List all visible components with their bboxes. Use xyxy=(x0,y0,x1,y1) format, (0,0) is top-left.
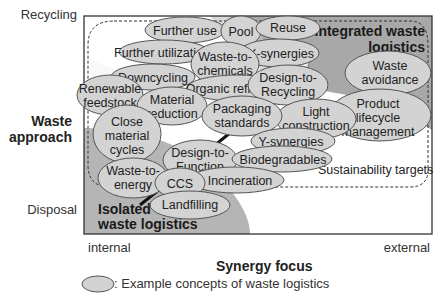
concept-further-use: Further use xyxy=(145,17,225,43)
x-axis-title: Synergy focus xyxy=(216,258,312,274)
svg-text:Further use: Further use xyxy=(153,24,217,38)
svg-text:Reuse: Reuse xyxy=(270,21,306,35)
svg-text:Incineration: Incineration xyxy=(208,174,273,188)
svg-text:Design-to-: Design-to- xyxy=(171,146,229,160)
integrated-label-line-1: Integrated waste xyxy=(315,23,426,39)
sustainability-targets-label: Sustainability targets xyxy=(318,163,433,177)
concept-reuse: Reuse xyxy=(256,16,320,40)
legend-ellipse-icon xyxy=(82,276,114,292)
svg-text:Waste-to-: Waste-to- xyxy=(198,50,252,64)
svg-text:Waste-to-: Waste-to- xyxy=(106,164,160,178)
svg-text:Packaging: Packaging xyxy=(213,102,271,116)
svg-text:Recycling: Recycling xyxy=(261,85,315,99)
concept-waste-avoidance: Waste avoidance xyxy=(345,51,431,95)
svg-text:material: material xyxy=(105,129,149,143)
svg-text:Pool: Pool xyxy=(228,25,253,39)
x-axis-right-label: external xyxy=(376,240,430,255)
svg-text:Renewable: Renewable xyxy=(79,82,142,96)
svg-text:standards: standards xyxy=(215,116,270,130)
svg-text:energy: energy xyxy=(114,178,153,192)
svg-text:Light: Light xyxy=(302,105,330,119)
svg-text:Design-to-: Design-to- xyxy=(259,71,317,85)
x-axis-left-label: internal xyxy=(88,240,131,255)
svg-text:Waste: Waste xyxy=(373,59,408,73)
svg-text:lifecycle: lifecycle xyxy=(356,111,401,125)
svg-text:Landfilling: Landfilling xyxy=(162,198,218,212)
svg-text:Product: Product xyxy=(356,97,400,111)
svg-text:Material: Material xyxy=(150,93,194,107)
isolated-label-line-1: Isolated xyxy=(98,201,151,217)
svg-text:Close: Close xyxy=(111,115,143,129)
svg-text:CCS: CCS xyxy=(167,177,193,191)
concept-close-material-cycles: Close material cycles xyxy=(93,105,161,163)
legend-text: : Example concepts of waste logistics xyxy=(114,276,329,291)
svg-text:Biodegradables: Biodegradables xyxy=(240,153,327,167)
svg-text:cycles: cycles xyxy=(110,143,145,157)
svg-text:avoidance: avoidance xyxy=(362,73,419,87)
concept-landfilling: Landfilling xyxy=(150,191,230,219)
